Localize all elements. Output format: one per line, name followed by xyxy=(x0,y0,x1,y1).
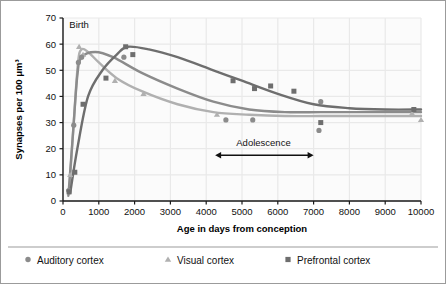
y-tick-label: 10 xyxy=(45,169,56,180)
y-tick-label: 40 xyxy=(45,91,56,102)
x-tick-label: 0 xyxy=(60,206,65,217)
legend-label: Visual cortex xyxy=(177,255,234,266)
annotation-birth: Birth xyxy=(69,19,89,30)
x-tick-label: 1000 xyxy=(88,206,109,217)
legend-label: Prefrontal cortex xyxy=(297,255,370,266)
y-tick-label: 20 xyxy=(45,143,56,154)
x-tick-label: 3000 xyxy=(160,206,181,217)
figure-root: 0102030405060700100020003000400050006000… xyxy=(0,0,446,284)
x-tick-label: 10000 xyxy=(408,206,434,217)
x-tick-label: 4000 xyxy=(196,206,217,217)
x-tick-label: 7000 xyxy=(303,206,324,217)
synaptic-density-chart: 0102030405060700100020003000400050006000… xyxy=(0,0,446,284)
y-tick-label: 0 xyxy=(51,195,56,206)
legend-label: Auditory cortex xyxy=(37,255,104,266)
legend-item-auditory-cortex[interactable]: Auditory cortex xyxy=(25,255,103,266)
chart-legend: Auditory cortexVisual cortexPrefrontal c… xyxy=(8,247,438,266)
y-axis-title: Synapses per 100 μm³ xyxy=(13,59,24,159)
legend-item-prefrontal-cortex[interactable]: Prefrontal cortex xyxy=(285,255,370,266)
x-tick-label: 8000 xyxy=(339,206,360,217)
x-tick-label: 5000 xyxy=(231,206,252,217)
y-tick-label: 30 xyxy=(45,117,56,128)
x-tick-label: 2000 xyxy=(124,206,145,217)
annotation-adolescence: Adolescence xyxy=(236,137,290,148)
x-axis-title: Age in days from conception xyxy=(177,223,308,234)
y-tick-label: 60 xyxy=(45,39,56,50)
x-tick-label: 9000 xyxy=(375,206,396,217)
y-tick-label: 70 xyxy=(45,12,56,23)
legend-item-visual-cortex[interactable]: Visual cortex xyxy=(165,255,234,266)
y-tick-label: 50 xyxy=(45,65,56,76)
x-tick-label: 6000 xyxy=(267,206,288,217)
